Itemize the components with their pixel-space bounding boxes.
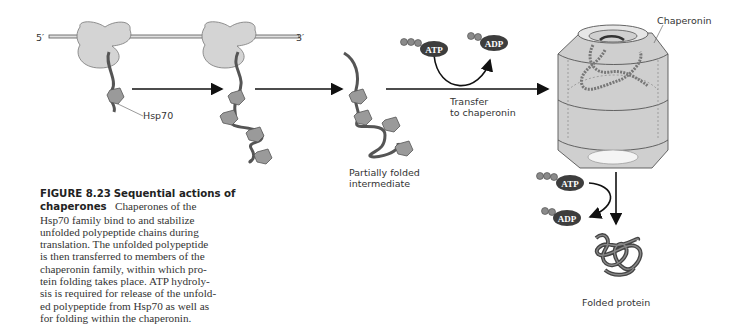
caption-line: translation. The unfolded polypeptide — [40, 238, 208, 250]
caption-line: for folding within the chaperonin. — [40, 312, 191, 324]
adp-molecule-top: ADP — [468, 33, 509, 52]
atp-adp-curve-arrow-2 — [589, 183, 611, 217]
hsp70-leader — [118, 104, 143, 116]
intermediate-label-line2: intermediate — [349, 178, 420, 189]
mrna-3-prime-label: 3′ — [296, 32, 304, 43]
chaperonin-leader — [654, 25, 663, 43]
chaperonin-barrel — [558, 25, 668, 168]
ribosome-2 — [202, 22, 272, 164]
caption-line: sis is required for release of the unfol… — [40, 287, 216, 299]
folded-protein — [596, 235, 641, 275]
atp-molecule-bottom: ATP — [537, 173, 585, 192]
transfer-label: Transfer to chaperonin — [450, 96, 516, 118]
figure-number: FIGURE 8.23 — [40, 188, 111, 199]
caption-line: tein folding takes place. ATP hydroly- — [40, 275, 210, 287]
partially-folded-intermediate — [344, 53, 413, 157]
hsp70-1 — [107, 88, 124, 104]
folded-protein-label: Folded protein — [582, 297, 650, 308]
intermediate-label-line1: Partially folded — [349, 167, 420, 178]
chaperonin-label: Chaperonin — [657, 15, 712, 26]
atp-adp-curve-arrow — [434, 55, 490, 86]
intermediate-label: Partially folded intermediate — [349, 167, 420, 189]
atp-label-2: ATP — [561, 179, 579, 189]
transfer-label-line1: Transfer — [450, 96, 516, 107]
caption-line: is then transferred to members of the — [40, 250, 205, 262]
caption-line: Chaperones of the — [115, 200, 196, 212]
atp-label: ATP — [425, 45, 443, 55]
caption-line: ed polypeptide from Hsp70 as well as — [40, 300, 209, 312]
atp-molecule-top: ATP — [401, 39, 449, 58]
mrna-5-prime-label: 5′ — [36, 32, 44, 43]
caption-line: chaperonin family, within which pro- — [40, 263, 207, 275]
transfer-label-line2: to chaperonin — [450, 107, 516, 118]
hsp70-label: Hsp70 — [143, 110, 173, 121]
adp-label-2: ADP — [558, 214, 577, 224]
adp-molecule-bottom: ADP — [542, 208, 582, 227]
figure-caption: FIGURE 8.23 Sequential actions of chaper… — [40, 187, 290, 324]
caption-line: Hsp70 family bind to and stabilize — [40, 214, 194, 226]
adp-label: ADP — [485, 39, 504, 49]
caption-line: unfolded polypeptide chains during — [40, 226, 199, 238]
